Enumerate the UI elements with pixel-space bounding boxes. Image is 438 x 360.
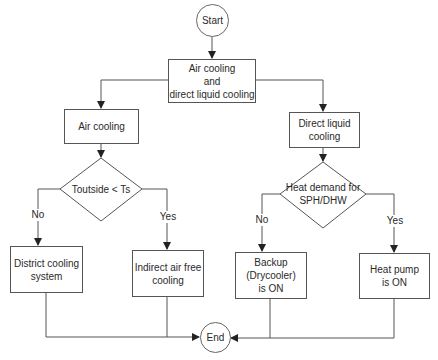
start-node: Start	[196, 4, 229, 37]
heat-yes-label: Yes	[387, 215, 403, 227]
heat-pump-box: Heat pump is ON	[359, 253, 430, 299]
end-node: End	[200, 322, 231, 353]
start-label: Start	[202, 14, 223, 27]
combined-cooling-label: Air cooling and direct liquid cooling	[169, 62, 254, 101]
backup-drycooler-label: Backup (Drycooler) is ON	[246, 256, 295, 295]
heat-no-label: No	[256, 214, 269, 226]
direct-liquid-cooling-label: Direct liquid cooling	[298, 117, 350, 143]
direct-liquid-cooling-box: Direct liquid cooling	[289, 112, 360, 148]
temp-no-label: No	[32, 209, 45, 221]
combined-cooling-box: Air cooling and direct liquid cooling	[168, 59, 256, 103]
air-cooling-label: Air cooling	[78, 120, 125, 133]
heat-demand-decision-label: Heat demand for SPH/DHW	[286, 181, 361, 207]
end-label: End	[207, 331, 225, 344]
district-cooling-box: District cooling system	[10, 246, 83, 293]
temperature-decision-label: Toutside < Ts	[72, 183, 130, 196]
temperature-decision: Toutside < Ts	[60, 180, 142, 198]
air-cooling-box: Air cooling	[64, 109, 139, 144]
heat-demand-decision: Heat demand for SPH/DHW	[280, 180, 366, 208]
indirect-air-free-cooling-label: Indirect air free cooling	[135, 261, 202, 287]
heat-pump-label: Heat pump is ON	[370, 263, 419, 289]
temp-yes-label: Yes	[160, 211, 176, 223]
district-cooling-label: District cooling system	[14, 257, 79, 283]
backup-drycooler-box: Backup (Drycooler) is ON	[235, 252, 307, 299]
indirect-air-free-cooling-box: Indirect air free cooling	[132, 250, 204, 297]
